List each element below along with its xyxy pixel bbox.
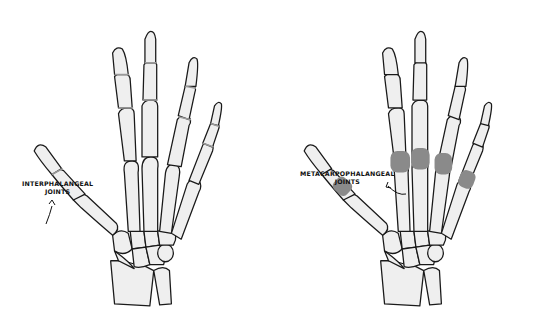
label-line-1: METACARPOPHALANGEAL [300, 170, 395, 178]
left-label-arrow [46, 206, 52, 224]
left-label-arrowhead [49, 200, 55, 205]
right-hand-skeleton [304, 31, 491, 305]
label-line-2: JOINTS [300, 178, 395, 186]
label-line-2: JOINTS [22, 188, 93, 196]
hand-anatomy-figure [0, 0, 542, 332]
interphalangeal-joints-label: INTERPHALANGEAL JOINTS [22, 180, 93, 196]
left-hand-skeleton [34, 31, 221, 305]
label-line-1: INTERPHALANGEAL [22, 180, 93, 188]
metacarpophalangeal-joints-label: METACARPOPHALANGEAL JOINTS [300, 170, 395, 186]
